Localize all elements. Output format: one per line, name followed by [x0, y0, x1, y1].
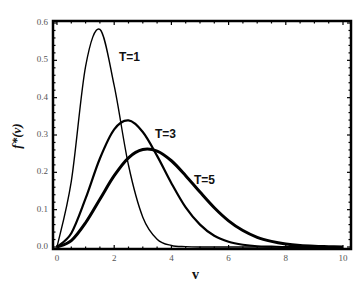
- x-axis-label: v: [192, 267, 199, 283]
- label-t1: T=1: [119, 50, 140, 64]
- x-tick-label: 0: [47, 253, 67, 263]
- x-tick-label: 10: [333, 253, 353, 263]
- y-tick-label: 0.4: [24, 92, 48, 102]
- curves: [57, 29, 343, 247]
- chart-canvas: [0, 0, 364, 293]
- plot-frame: [53, 21, 351, 249]
- y-axis-label: f*(v): [9, 111, 25, 161]
- y-tick-label: 0.0: [24, 241, 48, 251]
- x-tick-label: 8: [276, 253, 296, 263]
- y-tick-label: 0.2: [24, 166, 48, 176]
- y-tick-label: 0.6: [24, 17, 48, 27]
- axis-ticks: [53, 21, 351, 249]
- x-tick-label: 4: [161, 253, 181, 263]
- y-tick-label: 0.3: [24, 129, 48, 139]
- label-t3: T=3: [155, 127, 176, 141]
- y-tick-label: 0.5: [24, 54, 48, 64]
- y-tick-label: 0.1: [24, 204, 48, 214]
- curve-t5: [57, 149, 343, 247]
- curve-t1: [57, 29, 343, 247]
- x-tick-label: 6: [219, 253, 239, 263]
- x-tick-label: 2: [104, 253, 124, 263]
- label-t5: T=5: [194, 173, 215, 187]
